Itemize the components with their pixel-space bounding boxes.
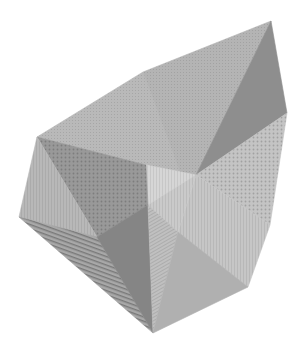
polyhedron-figure	[0, 0, 303, 351]
polyhedron-svg	[0, 0, 303, 351]
facet-group	[19, 21, 287, 333]
